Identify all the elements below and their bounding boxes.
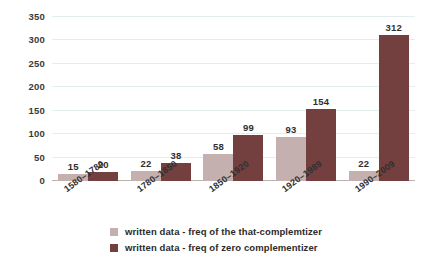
bar-value-label: 15	[68, 161, 79, 172]
bar-value-label: 22	[358, 158, 369, 169]
legend-label: written data - freq of the that-complemt…	[125, 226, 322, 237]
bar-wrap: 20	[88, 17, 118, 181]
bar-wrap: 93	[276, 17, 306, 181]
legend-label: written data - freq of zero complementiz…	[125, 242, 318, 253]
bar-wrap: 22	[131, 17, 161, 181]
bar-value-label: 312	[385, 22, 401, 33]
y-axis-tick-label: 100	[29, 128, 45, 139]
legend-item: written data - freq of the that-complemt…	[110, 226, 322, 237]
bar-group: 15201580–1780	[52, 17, 125, 181]
bar-value-label: 93	[286, 124, 297, 135]
y-axis-tick-label: 200	[29, 81, 45, 92]
legend-swatch-icon	[110, 244, 118, 252]
bar-group: 58991850–1920	[197, 17, 270, 181]
y-axis-tick-label: 50	[34, 151, 45, 162]
bar-group: 22381780–1850	[125, 17, 198, 181]
legend-item: written data - freq of zero complementiz…	[110, 242, 322, 253]
bar-value-label: 154	[313, 96, 329, 107]
bar-wrap: 58	[203, 17, 233, 181]
bar-wrap: 99	[233, 17, 263, 181]
bar-group: 223121990–2009	[342, 17, 415, 181]
y-axis-tick-label: 250	[29, 57, 45, 68]
bar-wrap: 38	[161, 17, 191, 181]
legend-swatch-icon	[110, 228, 118, 236]
bar-value-label: 58	[213, 141, 224, 152]
bar-group: 931541920–1989	[270, 17, 343, 181]
bar-value-label: 22	[140, 158, 151, 169]
bar-wrap: 154	[306, 17, 336, 181]
y-axis-tick-label: 300	[29, 34, 45, 45]
y-axis-tick-label: 350	[29, 11, 45, 22]
plot-area: 0 50 100 150 200 250 300 350 15201580–17…	[52, 17, 415, 181]
legend: written data - freq of the that-complemt…	[110, 226, 322, 258]
bar-chart: 0 50 100 150 200 250 300 350 15201580–17…	[0, 0, 431, 277]
y-axis-tick-label: 150	[29, 104, 45, 115]
y-axis-tick-label: 0	[40, 175, 45, 186]
bar-wrap: 15	[58, 17, 88, 181]
bar[interactable]: 312	[379, 35, 409, 181]
bar-wrap: 312	[379, 17, 409, 181]
bar-wrap: 22	[349, 17, 379, 181]
bar-value-label: 99	[243, 122, 254, 133]
